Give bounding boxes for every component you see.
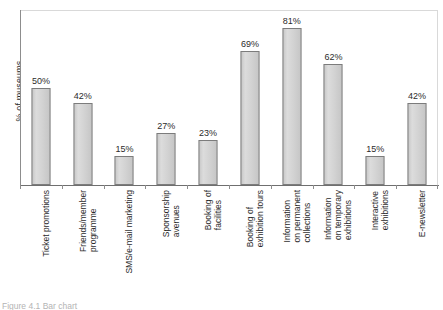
category-label: Friends/memberprogramme [78,190,98,252]
category-label: Booking ofexhibition tours [245,190,265,247]
category-label: E-newsletter [417,190,427,237]
x-axis-tick [437,185,438,189]
bar-value-label: 50% [32,76,50,86]
bar-group: 81% [271,10,313,185]
bar[interactable] [199,140,218,185]
x-axis-tick [187,185,188,189]
bar-chart-figure: % of museums 50%42%15%27%23%69%81%62%15%… [0,0,443,310]
bar[interactable] [73,103,92,185]
x-axis-tick [62,185,63,189]
bar[interactable] [282,28,301,186]
bar-group: 15% [354,10,396,185]
x-axis-tick [313,185,314,189]
x-axis-tick [271,185,272,189]
category-label: Informationon temporaryexhibitions [323,190,353,240]
category-label-slot: Ticket promotions [20,190,62,295]
bar-value-label: 62% [324,52,342,62]
bar-group: 27% [145,10,187,185]
bar[interactable] [324,64,343,185]
bar-group: 15% [104,10,146,185]
category-label-slot: Informationon permanentcollections [271,190,313,295]
bar[interactable] [115,156,134,185]
category-label-slot: Informationon temporaryexhibitions [313,190,355,295]
category-label: Ticket promotions [41,190,51,257]
bar[interactable] [408,103,427,185]
bar-value-label: 23% [199,128,217,138]
bar-value-label: 42% [74,91,92,101]
category-label-slot: Interactiveexhibitions [354,190,396,295]
category-label: SMS/e-mail marketing [124,190,134,274]
category-label-line: Interactive [370,190,380,230]
x-axis-tick [354,185,355,189]
bars-layer: 50%42%15%27%23%69%81%62%15%42% [20,10,438,185]
category-label: Sponsorshipavenues [161,190,181,237]
bar[interactable] [366,156,385,185]
category-label-line: Booking of [203,190,213,230]
category-label-line: on permanent [292,190,302,242]
category-label-line: Information [323,190,333,240]
category-label-slot: Booking offacilities [187,190,229,295]
category-label-line: on temporary [333,190,343,240]
bar-group: 42% [396,10,438,185]
category-label: Informationon permanentcollections [282,190,312,242]
x-axis-tick [396,185,397,189]
category-label-line: programme [88,190,98,252]
bar-group: 42% [62,10,104,185]
category-label-line: avenues [171,190,181,237]
category-label-line: Friends/member [78,190,88,252]
category-label-line: exhibitions [380,190,390,230]
bar-value-label: 42% [408,91,426,101]
category-label-line: Booking of [245,190,255,247]
category-label-line: exhibitions [343,190,353,240]
bar-group: 69% [229,10,271,185]
category-label-slot: Friends/memberprogramme [62,190,104,295]
bar-value-label: 69% [241,39,259,49]
category-label: Interactiveexhibitions [370,190,390,230]
category-label: Booking offacilities [203,190,223,230]
bar[interactable] [157,133,176,186]
category-label-line: Ticket promotions [41,190,51,257]
x-axis-tick [20,185,21,189]
bar-value-label: 15% [115,144,133,154]
bar-value-label: 81% [283,16,301,26]
category-label-slot: Booking ofexhibition tours [229,190,271,295]
bar-group: 50% [20,10,62,185]
bar-group: 62% [313,10,355,185]
x-axis-tick [104,185,105,189]
bar-value-label: 27% [157,121,175,131]
bar-group: 23% [187,10,229,185]
category-label-line: facilities [213,190,223,230]
category-label-slot: E-newsletter [396,190,438,295]
category-label-line: Sponsorship [161,190,171,237]
bar[interactable] [31,88,50,185]
figure-caption: Figure 4.1 Bar chart [2,301,302,310]
bar-value-label: 15% [366,144,384,154]
category-labels: Ticket promotionsFriends/memberprogramme… [20,190,438,295]
category-label-line: exhibition tours [255,190,265,247]
category-label-line: E-newsletter [417,190,427,237]
category-label-slot: Sponsorshipavenues [145,190,187,295]
x-axis-tick [229,185,230,189]
x-axis-tick [145,185,146,189]
category-label-line: Information [282,190,292,242]
category-label-line: SMS/e-mail marketing [124,190,134,274]
bar[interactable] [240,51,259,185]
category-label-line: collections [302,190,312,242]
category-label-slot: SMS/e-mail marketing [104,190,146,295]
